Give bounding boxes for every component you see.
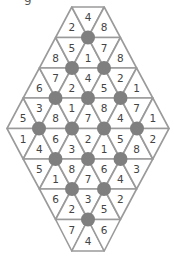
cell-number: 1 [52, 173, 59, 185]
cell-number: 8 [101, 102, 108, 114]
cell-number: 3 [36, 102, 43, 114]
vertex-dot [97, 122, 111, 136]
vertex-dot [49, 152, 63, 166]
cell-number: 6 [101, 163, 108, 175]
cell-number: 2 [117, 193, 124, 205]
cell-number: 1 [20, 133, 27, 145]
cell-number: 3 [68, 143, 75, 155]
cell-number: 1 [133, 82, 140, 94]
vertex-dot [97, 61, 111, 75]
cell-number: 7 [133, 102, 140, 114]
vertex-dot [81, 31, 95, 45]
cell-number: 7 [85, 173, 92, 185]
cell-number: 4 [85, 72, 92, 84]
cell-number: 3 [85, 193, 92, 205]
vertex-dot [81, 91, 95, 105]
vertex-dot [65, 61, 79, 75]
cell-number: 6 [52, 133, 59, 145]
vertex-dot [81, 152, 95, 166]
cell-number: 8 [101, 21, 108, 33]
cell-number: 2 [68, 203, 75, 215]
cell-number: 2 [117, 72, 124, 84]
cell-number: 8 [52, 112, 59, 124]
vertex-dot [114, 91, 128, 105]
vertex-dot [65, 122, 79, 136]
triangle-number-puzzle-board: 2488517867245215381784711463215825187643… [0, 0, 174, 263]
cell-number: 8 [133, 143, 140, 155]
cell-number: 3 [133, 163, 140, 175]
cell-number: 8 [117, 52, 124, 64]
cell-number: 6 [101, 224, 108, 236]
vertex-dot [49, 91, 63, 105]
vertex-dot [97, 182, 111, 196]
vertex-dot [32, 122, 46, 136]
cell-number: 7 [85, 112, 92, 124]
cell-number: 6 [36, 82, 43, 94]
cell-number: 4 [85, 235, 92, 247]
cell-number: 8 [52, 52, 59, 64]
cell-number: 2 [68, 21, 75, 33]
vertex-dot [114, 152, 128, 166]
cell-number: 1 [68, 102, 75, 114]
cell-number: 2 [149, 133, 156, 145]
vertex-dot [81, 213, 95, 227]
cell-number: 2 [68, 82, 75, 94]
cell-number: 1 [149, 112, 156, 124]
cell-number: 1 [85, 52, 92, 64]
cell-number: 4 [117, 173, 124, 185]
cell-number: 5 [101, 82, 108, 94]
cell-number: 5 [117, 133, 124, 145]
cell-number: 5 [20, 112, 27, 124]
cell-number: 4 [117, 112, 124, 124]
cell-number: 4 [85, 11, 92, 23]
cell-number: 7 [52, 72, 59, 84]
vertex-dot [130, 122, 144, 136]
cell-number: 8 [68, 163, 75, 175]
cell-number: 5 [101, 203, 108, 215]
cell-number: 1 [101, 143, 108, 155]
cell-number: 4 [36, 143, 43, 155]
cell-number: 5 [68, 42, 75, 54]
cell-number: 7 [101, 42, 108, 54]
vertex-dot [65, 182, 79, 196]
cell-number: 2 [85, 133, 92, 145]
cell-number: 7 [68, 224, 75, 236]
cell-number: 5 [36, 163, 43, 175]
cell-number: 6 [52, 193, 59, 205]
